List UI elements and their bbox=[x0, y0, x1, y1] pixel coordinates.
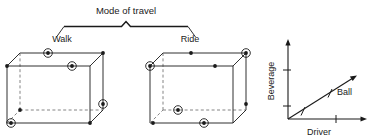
factorial-design-figure: Mode of travel Walk bbox=[0, 0, 377, 140]
inset-trend-arrowhead bbox=[350, 76, 357, 82]
inset-ball-label: Ball bbox=[337, 87, 352, 97]
figure-title: Mode of travel bbox=[96, 5, 156, 16]
cube-ride: Ride bbox=[146, 34, 251, 127]
ride-edge-connect-bottom-right bbox=[233, 110, 246, 123]
ride-vertex-front-top-right bbox=[213, 64, 217, 68]
inset-y-axis-arrowhead bbox=[285, 39, 290, 46]
ride-vertex-front-bottom-left bbox=[151, 121, 155, 125]
ride-vertex-back-bottom-right bbox=[244, 102, 248, 106]
walk-edge-connect-top-right bbox=[90, 53, 103, 66]
walk-edge-connect-bottom-left bbox=[7, 110, 20, 123]
cube-walk-label: Walk bbox=[52, 34, 72, 44]
inset-x-axis-label: Driver bbox=[307, 127, 331, 137]
brace-group bbox=[57, 22, 196, 38]
walk-vertex-front-top-left bbox=[5, 64, 9, 68]
ride-vertex-back-top-mid bbox=[189, 51, 193, 55]
ride-edge-connect-bottom-left bbox=[150, 110, 163, 123]
inset-y-axis-label: Beverage bbox=[266, 62, 276, 101]
cube-ride-label: Ride bbox=[181, 34, 200, 44]
ride-edge-connect-top-left bbox=[150, 53, 163, 66]
walk-vertex-back-bottom-left bbox=[18, 108, 22, 112]
inset-trend-tick-1 bbox=[301, 107, 305, 116]
walk-vertex-back-top-right bbox=[101, 51, 105, 55]
ride-edge-connect-top-right bbox=[233, 53, 246, 66]
inset-plot: Ball Beverage Driver bbox=[266, 39, 367, 137]
walk-edge-connect-bottom-right bbox=[90, 110, 103, 123]
walk-edge-connect-top-left bbox=[7, 53, 20, 66]
inset-trend-line bbox=[288, 78, 353, 119]
cube-walk: Walk bbox=[5, 34, 107, 127]
walk-vertex-front-bottom-right bbox=[88, 121, 92, 125]
inset-x-axis-arrowhead bbox=[361, 116, 368, 121]
figure-canvas: Mode of travel Walk bbox=[0, 0, 377, 140]
brace-body bbox=[64, 22, 188, 27]
